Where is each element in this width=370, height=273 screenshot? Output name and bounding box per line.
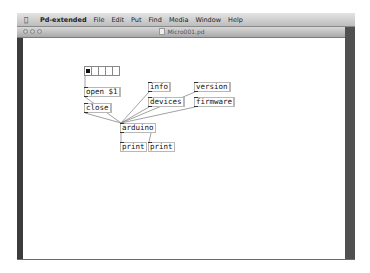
message-firmware[interactable]: firmware bbox=[194, 97, 235, 107]
cord-arduino-print2[interactable] bbox=[149, 133, 151, 142]
inlet bbox=[120, 123, 124, 124]
cord-firmware-arduino[interactable] bbox=[121, 107, 195, 123]
message-devices-label: devices bbox=[150, 97, 182, 106]
message-close-label: close bbox=[86, 103, 109, 112]
inlet bbox=[148, 97, 152, 98]
message-info-label: info bbox=[150, 82, 168, 91]
message-info[interactable]: info bbox=[148, 82, 171, 92]
message-devices[interactable]: devices bbox=[148, 97, 185, 107]
outlet bbox=[120, 132, 124, 133]
object-arduino-label: arduino bbox=[122, 123, 154, 132]
cord-devices-arduino[interactable] bbox=[121, 107, 149, 123]
outlet bbox=[84, 96, 88, 97]
message-version-label: version bbox=[196, 82, 228, 91]
inlet bbox=[84, 87, 88, 88]
hradio[interactable] bbox=[84, 66, 120, 76]
object-arduino[interactable]: arduino bbox=[120, 123, 156, 133]
outlet bbox=[194, 91, 198, 92]
message-firmware-label: firmware bbox=[196, 97, 232, 106]
message-close[interactable]: close bbox=[84, 103, 112, 113]
object-print-2[interactable]: print bbox=[148, 142, 175, 152]
object-print-2-label: print bbox=[150, 142, 173, 151]
inlet bbox=[194, 97, 198, 98]
patch-cords bbox=[0, 0, 370, 273]
inlet bbox=[148, 82, 152, 83]
inlet bbox=[84, 103, 88, 104]
cord-close-arduino[interactable] bbox=[85, 113, 121, 123]
message-open[interactable]: open $1 bbox=[84, 87, 121, 97]
outlet bbox=[148, 106, 152, 107]
inlet bbox=[194, 82, 198, 83]
outlet bbox=[148, 91, 152, 92]
message-version[interactable]: version bbox=[194, 82, 231, 92]
message-open-label: open $1 bbox=[86, 87, 118, 96]
object-print-1[interactable]: print bbox=[120, 142, 147, 152]
outlet bbox=[84, 112, 88, 113]
hradio-cell-4[interactable] bbox=[112, 66, 120, 76]
inlet bbox=[120, 142, 124, 143]
object-print-1-label: print bbox=[122, 142, 145, 151]
inlet bbox=[148, 142, 152, 143]
cord-info-arduino[interactable] bbox=[121, 92, 149, 123]
outlet bbox=[194, 106, 198, 107]
